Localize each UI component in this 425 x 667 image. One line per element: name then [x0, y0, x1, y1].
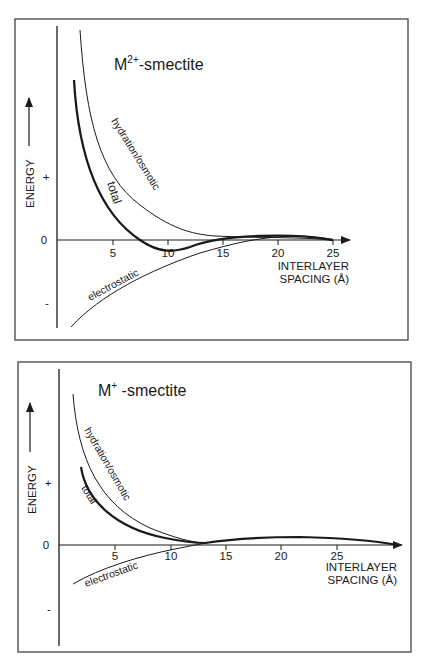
chart-title: M2+-smectite	[114, 54, 204, 73]
x-tick-label: 20	[275, 550, 288, 562]
x-axis-label-line1: INTERLAYER	[278, 260, 349, 272]
chart-panel-m-smectite: 5 10 15 20 25 + 0 - ENERGY INTERLAYER SP…	[18, 362, 411, 652]
x-tick-label: 20	[272, 247, 285, 259]
x-axis-label-line1: INTERLAYER	[326, 561, 397, 573]
figure: 5 10 15 20 25 + 0 - ENERGY INTERLAYER SP…	[0, 0, 425, 667]
x-tick-label: 25	[327, 247, 340, 259]
label-total: total	[104, 180, 124, 206]
y-tick-plus: +	[45, 477, 52, 489]
y-tick-zero: 0	[43, 539, 49, 551]
y-tick-plus: +	[43, 171, 50, 183]
x-tick-label: 10	[162, 247, 175, 259]
label-electrostatic: electrostatic	[85, 266, 140, 303]
y-tick-minus: -	[45, 297, 49, 309]
x-tick-label: 15	[217, 247, 230, 259]
x-tick-label: 15	[220, 550, 233, 562]
label-electrostatic: electrostatic	[83, 558, 140, 588]
hydration-osmotic-curve	[73, 394, 205, 543]
x-tick-label: 5	[112, 550, 118, 562]
x-tick-label: 10	[165, 550, 178, 562]
x-axis-label-line2: SPACING (Å)	[280, 273, 350, 285]
total-curve	[81, 467, 398, 545]
chart-panel-m2-smectite: 5 10 15 20 25 + 0 - ENERGY INTERLAYER SP…	[15, 19, 408, 340]
panel-frame	[15, 19, 408, 340]
total-curve	[74, 80, 333, 251]
y-axis-label: ENERGY	[26, 465, 38, 514]
y-tick-minus: -	[47, 603, 51, 615]
y-tick-zero: 0	[41, 234, 47, 246]
x-axis-label-line2: SPACING (Å)	[328, 574, 398, 586]
chart-title: M+ -smectite	[98, 380, 187, 399]
y-axis-label: ENERGY	[24, 159, 36, 208]
x-tick-label: 5	[110, 247, 116, 259]
panel-frame	[18, 362, 411, 652]
